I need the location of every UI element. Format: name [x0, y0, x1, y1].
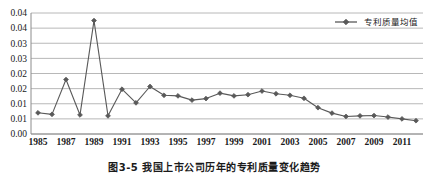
legend-label-patent-quality: 专利质量均值: [364, 17, 418, 27]
data-point-marker: [330, 111, 335, 116]
data-point-marker: [232, 93, 237, 98]
y-axis-tick-label: 0.01: [10, 99, 27, 109]
data-point-marker: [344, 114, 349, 119]
data-point-marker: [246, 92, 251, 97]
data-point-marker: [36, 110, 41, 115]
data-point-marker: [50, 112, 55, 117]
figure-container: 0.040.040.030.030.020.020.010.010.001985…: [0, 0, 429, 175]
y-axis-tick-label: 0.02: [10, 69, 27, 79]
data-point-marker: [218, 91, 223, 96]
data-point-marker: [106, 113, 111, 118]
data-point-marker: [274, 91, 279, 96]
data-point-marker: [64, 77, 69, 82]
data-point-marker: [92, 18, 97, 23]
y-axis-tick-label: 0.04: [10, 23, 27, 33]
y-axis-tick-label: 0.04: [10, 8, 27, 18]
y-axis-tick-label: 0.01: [10, 114, 27, 124]
data-point-marker: [288, 93, 293, 98]
x-axis-tick-label: 2007: [337, 137, 356, 147]
x-axis-tick-label: 1997: [197, 137, 216, 147]
x-axis-tick-label: 1995: [169, 137, 188, 147]
y-axis-tick-label: 0.00: [10, 129, 27, 139]
figure-caption: 图3-5 我国上市公司历年的专利质量变化趋势: [0, 161, 429, 175]
series-line-patent-quality: [38, 21, 416, 121]
data-point-marker: [372, 113, 377, 118]
x-axis-tick-label: 1989: [85, 137, 104, 147]
data-point-marker: [400, 116, 405, 121]
x-axis-tick-label: 1993: [141, 137, 160, 147]
line-chart: 0.040.040.030.030.020.020.010.010.001985…: [0, 0, 429, 156]
x-axis-tick-label: 2009: [365, 137, 384, 147]
chart-legend: 专利质量均值: [335, 17, 418, 27]
legend-marker-diamond: [343, 19, 349, 25]
data-point-marker: [260, 89, 265, 94]
data-point-marker: [176, 93, 181, 98]
x-axis-tick-label: 1985: [29, 137, 48, 147]
x-axis-tick-label: 1987: [57, 137, 76, 147]
data-point-marker: [78, 113, 83, 118]
data-point-marker: [358, 113, 363, 118]
x-axis-tick-label: 1999: [225, 137, 244, 147]
x-axis-tick-label: 2005: [309, 137, 328, 147]
data-point-marker: [190, 98, 195, 103]
x-axis-tick-label: 2001: [253, 137, 272, 147]
x-axis-tick-label: 2003: [281, 137, 300, 147]
chart-area: 0.040.040.030.030.020.020.010.010.001985…: [0, 0, 429, 156]
y-axis-tick-label: 0.03: [10, 39, 27, 49]
x-axis-tick-label: 1991: [113, 137, 132, 147]
x-axis-tick-label: 2011: [393, 137, 412, 147]
y-axis-tick-label: 0.02: [10, 84, 27, 94]
y-axis-tick-label: 0.03: [10, 54, 27, 64]
data-point-marker: [204, 96, 209, 101]
